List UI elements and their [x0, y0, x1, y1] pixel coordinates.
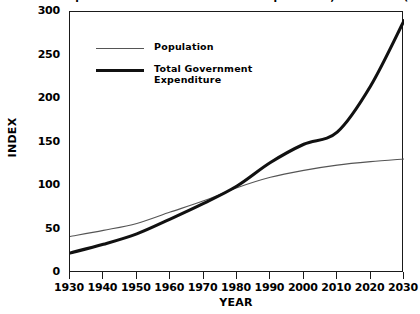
line-population — [70, 159, 404, 236]
legend-item-total-government-expenditure: Total Government Expenditure — [96, 62, 296, 84]
legend-item-population: Population — [96, 40, 296, 62]
y-tick-label: 50 — [16, 223, 60, 234]
x-tick-mark — [336, 272, 337, 279]
y-tick-label: 150 — [16, 136, 60, 147]
legend-swatch-population-icon — [96, 48, 144, 49]
y-axis-title: INDEX — [6, 108, 19, 168]
y-tick-label: 200 — [16, 92, 60, 103]
x-tick-mark — [370, 272, 371, 279]
chart-legend: Population Total Government Expenditure — [96, 40, 296, 84]
x-tick-label: 2030 — [380, 282, 420, 294]
x-tick-mark — [403, 272, 404, 279]
legend-label-total-government-expenditure: Total Government Expenditure — [154, 63, 253, 85]
y-tick-label: 0 — [16, 266, 60, 277]
y-tick-label: 300 — [16, 5, 60, 16]
x-tick-mark — [269, 272, 270, 279]
x-tick-mark — [303, 272, 304, 279]
x-tick-mark — [102, 272, 103, 279]
legend-label-population: Population — [154, 41, 214, 52]
x-tick-mark — [236, 272, 237, 279]
x-tick-mark — [203, 272, 204, 279]
x-tick-mark — [169, 272, 170, 279]
x-tick-mark — [136, 272, 137, 279]
chart-title: Growth in Population and Total Governmen… — [0, 0, 420, 2]
y-tick-label: 250 — [16, 49, 60, 60]
x-tick-mark — [69, 272, 70, 279]
chart-figure: Growth in Population and Total Governmen… — [0, 0, 420, 314]
y-tick-label: 100 — [16, 179, 60, 190]
x-axis-title: YEAR — [69, 296, 403, 309]
legend-swatch-expenditure-icon — [96, 69, 144, 72]
